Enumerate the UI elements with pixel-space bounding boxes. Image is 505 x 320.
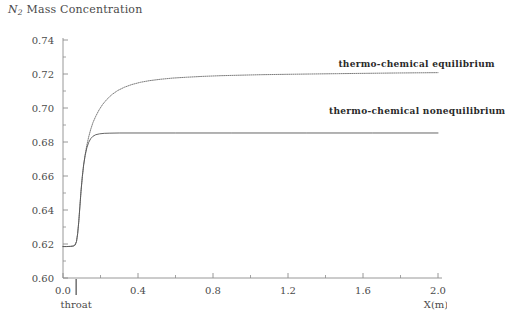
series-line-equilibrium <box>63 73 438 247</box>
x-tick-label: 1.2 <box>280 285 296 296</box>
ticks-group <box>63 40 438 278</box>
x-tick-label: 2.0 <box>430 285 446 296</box>
series-line-nonequilibrium <box>63 133 438 247</box>
tick-labels-group: 0.600.620.640.660.680.700.720.740.00.40.… <box>32 35 447 311</box>
series-label-equilibrium: thermo-chemical equilibrium <box>338 59 494 69</box>
y-tick-label: 0.66 <box>32 171 54 182</box>
y-tick-label: 0.74 <box>32 35 54 46</box>
y-tick-label: 0.62 <box>32 239 54 250</box>
y-tick-label: 0.68 <box>32 137 54 148</box>
x-axis-title: X(m) <box>424 299 447 310</box>
x-tick-label: 1.6 <box>355 285 371 296</box>
throat-label: throat <box>61 299 92 310</box>
series-label-nonequilibrium: thermo-chemical nonequilibrium <box>329 106 505 116</box>
y-tick-label: 0.64 <box>32 205 54 216</box>
x-tick-label: 0.4 <box>130 285 146 296</box>
axes-group <box>63 38 442 278</box>
y-tick-label: 0.72 <box>32 69 54 80</box>
series-group <box>63 73 438 247</box>
y-tick-label: 0.60 <box>32 273 54 284</box>
x-tick-label: 0.0 <box>55 285 71 296</box>
y-tick-label: 0.70 <box>32 103 54 114</box>
x-tick-label: 0.8 <box>205 285 221 296</box>
